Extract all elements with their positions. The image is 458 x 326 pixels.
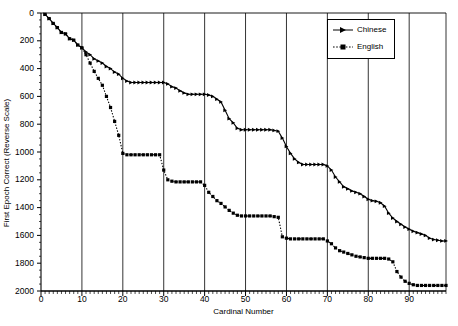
legend[interactable]: Chinese English	[327, 19, 395, 59]
legend-label-english: English	[357, 40, 383, 54]
legend-key-english	[332, 40, 354, 54]
legend-entry-english[interactable]: English	[332, 40, 394, 54]
legend-entry-chinese[interactable]: Chinese	[332, 23, 394, 37]
chart-figure: First Epoch Correct (Reverse Scale) Card…	[0, 0, 458, 326]
legend-key-chinese	[332, 23, 354, 37]
legend-label-chinese: Chinese	[357, 23, 386, 37]
